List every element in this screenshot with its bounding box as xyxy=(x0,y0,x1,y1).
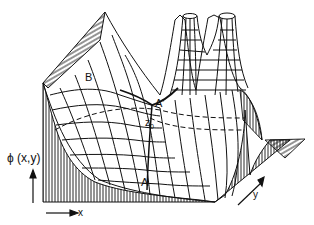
left-back-face xyxy=(43,12,105,88)
phi-axis-label: ϕ (x,y) xyxy=(7,152,40,164)
surface-plot xyxy=(0,0,314,225)
y-axis-label: y xyxy=(253,190,258,200)
x-axis-label: x xyxy=(78,208,83,218)
y-axis-arrow xyxy=(238,182,262,205)
point-a-prime-label: A' xyxy=(155,98,164,109)
point-z0-label: z0 xyxy=(145,118,154,130)
z0-subscript: 0 xyxy=(150,123,154,130)
point-b-label: B xyxy=(85,72,92,83)
right-front-wall xyxy=(215,90,305,202)
point-a-label: A xyxy=(141,177,148,188)
